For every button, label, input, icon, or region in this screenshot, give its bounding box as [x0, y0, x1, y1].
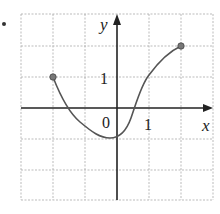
endpoint-right	[178, 43, 184, 49]
y-tick-label: 1	[100, 70, 108, 87]
x-axis-label: x	[201, 116, 210, 135]
x-tick-label: 1	[144, 116, 152, 133]
y-axis-label: y	[98, 15, 108, 34]
y-axis-arrow-icon	[113, 14, 121, 25]
function-graph: y x 0 1 1	[0, 0, 220, 214]
endpoint-left	[50, 74, 56, 80]
x-axis-arrow-icon	[203, 104, 213, 112]
origin-label: 0	[102, 114, 110, 131]
y-axis	[113, 14, 121, 200]
